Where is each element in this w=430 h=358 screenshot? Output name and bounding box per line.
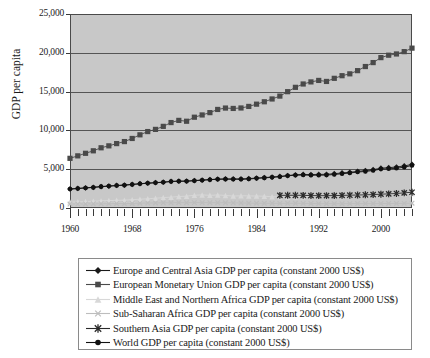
x-axis-tick-mark (148, 209, 149, 216)
chart-legend: Europe and Central Asia GDP per capita (… (78, 258, 412, 350)
x-axis-tick-mark (194, 209, 195, 218)
x-axis-tick-mark (396, 209, 397, 216)
legend-item-label: Middle East and Northern Africa GDP per … (111, 293, 398, 306)
y-axis-tick-label: 0 (4, 203, 64, 213)
legend-item-label: Southern Asia GDP per capita (constant 2… (111, 322, 322, 335)
x-axis-tick-mark (70, 209, 71, 218)
triangle-icon (85, 293, 111, 306)
x-axis-tick-mark (264, 209, 265, 216)
x-axis-tick-mark (334, 209, 335, 216)
x-axis-tick-mark (124, 209, 125, 216)
series-5 (68, 163, 415, 191)
x-axis-tick-mark (140, 209, 141, 216)
x-axis-tick-mark (179, 209, 180, 216)
x-axis-tick-mark (303, 209, 304, 216)
y-axis-tick-label: 5,000 (4, 164, 64, 174)
x-axis-tick-mark (311, 209, 312, 216)
x-axis-tick-mark (280, 209, 281, 216)
x-axis-tick-mark (78, 209, 79, 216)
x-axis-tick-mark (156, 209, 157, 216)
x-axis-tick-mark (365, 209, 366, 216)
x-axis-tick-mark (210, 209, 211, 216)
circle-icon (85, 336, 111, 349)
chart-figure: 05,00010,00015,00020,00025,000 GDP per c… (0, 0, 430, 358)
x-axis-tick-mark (233, 209, 234, 216)
x-axis-tick-mark (202, 209, 203, 216)
x-axis-tick-mark (288, 209, 289, 216)
series-3 (68, 200, 415, 206)
series-4 (277, 189, 414, 199)
x-axis-tick-mark (342, 209, 343, 216)
legend-item[interactable]: Southern Asia GDP per capita (constant 2… (85, 321, 411, 335)
y-axis-title: GDP per capita (10, 24, 22, 144)
x-axis-tick-mark (358, 209, 359, 216)
legend-item-label: Europe and Central Asia GDP per capita (… (111, 264, 364, 277)
series-1 (67, 46, 414, 161)
x-axis-tick-mark (117, 209, 118, 216)
star-icon (85, 322, 111, 335)
x-axis-tick-mark (327, 209, 328, 216)
x-axis-tick-label: 1960 (61, 225, 79, 235)
legend-item-label: World GDP per capita (constant 2000 US$) (111, 336, 289, 349)
series-0 (67, 162, 415, 192)
x-axis-tick-mark (412, 209, 413, 216)
x-axis-tick-mark (249, 209, 250, 216)
series-layer (70, 14, 412, 208)
x-axis-tick-label: 1976 (185, 225, 203, 235)
x-axis-tick-marks (70, 209, 412, 218)
x-axis-tick-mark (163, 209, 164, 216)
x-axis-tick-mark (225, 209, 226, 216)
x-axis-tick-label: 1984 (247, 225, 265, 235)
x-axis-tick-mark (272, 209, 273, 216)
x-axis-tick-mark (257, 209, 258, 218)
x-axis-tick-mark (109, 209, 110, 216)
legend-item[interactable]: Sub-Saharan Africa GDP per capita (const… (85, 307, 411, 321)
x-axis-tick-mark (381, 209, 382, 218)
square-icon (85, 278, 111, 291)
x-axis-tick-mark (171, 209, 172, 216)
x-axis-tick-mark (373, 209, 374, 216)
x-axis-tick-mark (132, 209, 133, 218)
x-axis-tick-label: 2000 (372, 225, 390, 235)
x-axis-tick-label: 1968 (123, 225, 141, 235)
x-axis-tick-labels: 196019681976198419922000 (70, 225, 412, 239)
x-axis-tick-mark (404, 209, 405, 216)
diamond-icon (85, 264, 111, 277)
legend-item[interactable]: European Monetary Union GDP per capita (… (85, 278, 411, 292)
x-axis-tick-mark (93, 209, 94, 216)
x-axis-tick-mark (86, 209, 87, 216)
x-axis-tick-mark (295, 209, 296, 216)
x-axis-tick-mark (350, 209, 351, 216)
x-axis-tick-mark (101, 209, 102, 216)
x-axis-tick-mark (218, 209, 219, 216)
cross-icon (85, 307, 111, 320)
x-axis-tick-label: 1992 (310, 225, 328, 235)
legend-item-label: Sub-Saharan Africa GDP per capita (const… (111, 307, 344, 320)
legend-item[interactable]: Middle East and Northern Africa GDP per … (85, 292, 411, 306)
x-axis-tick-mark (241, 209, 242, 216)
legend-item-label: European Monetary Union GDP per capita (… (111, 278, 373, 291)
x-axis-tick-mark (187, 209, 188, 216)
y-axis-tick-label: 25,000 (4, 9, 64, 19)
x-axis-tick-mark (389, 209, 390, 216)
plot-region: 05,00010,00015,00020,00025,000 GDP per c… (0, 0, 430, 248)
legend-item[interactable]: Europe and Central Asia GDP per capita (… (85, 263, 411, 277)
legend-item[interactable]: World GDP per capita (constant 2000 US$) (85, 336, 411, 350)
x-axis-tick-mark (319, 209, 320, 218)
